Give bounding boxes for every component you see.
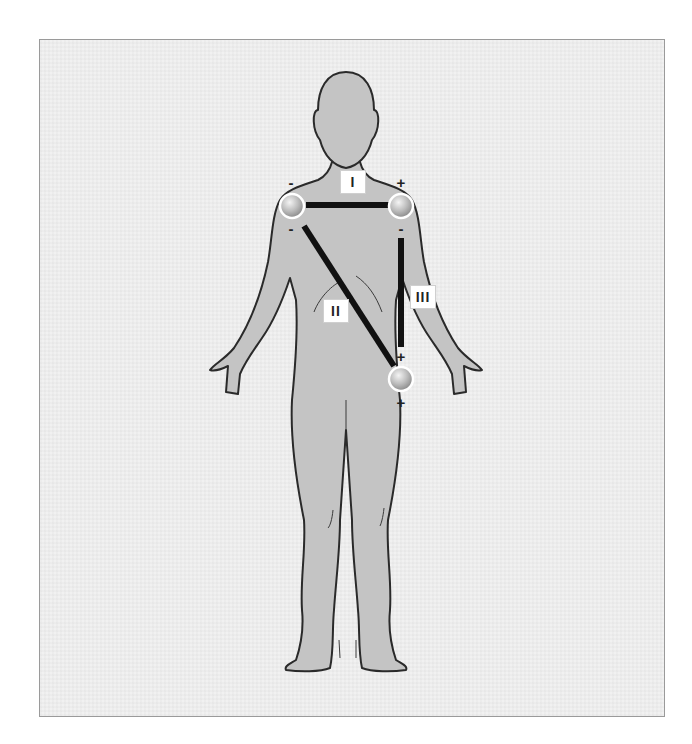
lead-i-label: I bbox=[340, 170, 366, 194]
polarity-right-arm-top: - bbox=[284, 176, 298, 190]
lead-iii-label: III bbox=[410, 285, 436, 309]
lead-ii-label: II bbox=[323, 299, 349, 323]
polarity-left-leg-bottom: + bbox=[394, 396, 408, 410]
electrode-left-leg bbox=[389, 367, 413, 391]
human-figure bbox=[0, 0, 692, 744]
polarity-left-leg-top: + bbox=[394, 350, 408, 364]
polarity-left-arm-bottom: - bbox=[394, 222, 408, 236]
polarity-right-arm-bottom: - bbox=[284, 222, 298, 236]
electrode-left-arm bbox=[389, 194, 413, 218]
electrode-right-arm bbox=[280, 194, 304, 218]
polarity-left-arm-top: + bbox=[394, 176, 408, 190]
